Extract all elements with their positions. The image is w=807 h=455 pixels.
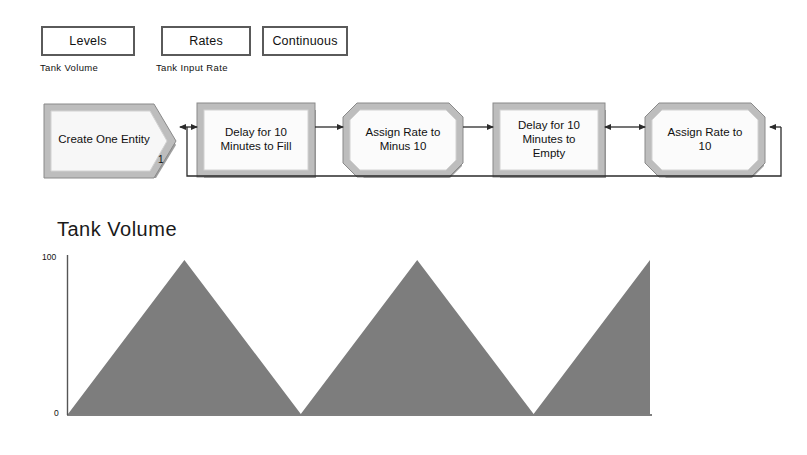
block-delay-empty-inner	[500, 110, 598, 170]
tank-volume-chart	[0, 200, 807, 455]
block-create-one-entity-inner	[51, 111, 167, 171]
chart-area-series-tank-volume	[68, 260, 650, 414]
block-delay-fill-inner	[204, 110, 308, 170]
block-assign-rate-10-inner	[652, 110, 758, 170]
flowchart-diagram	[0, 0, 807, 200]
application-canvas: Levels Rates Continuous Tank Volume Tank…	[0, 0, 807, 455]
block-assign-rate-minus-10-inner	[350, 110, 456, 170]
entity-count-label: 1	[158, 154, 164, 165]
